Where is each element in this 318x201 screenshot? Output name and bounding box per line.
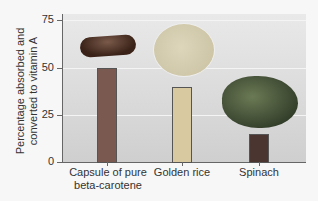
y-axis-title: Percentage absorbed and converted to vit… [14,16,40,166]
bar-capsule [97,68,117,163]
y-tick [57,68,62,69]
x-label-golden-rice: Golden rice [150,166,214,179]
y-tick [57,115,62,116]
y-tick [57,162,62,163]
capsule-image [79,34,136,58]
y-axis [62,14,63,163]
x-label-spinach: Spinach [230,166,288,179]
bar-spinach [249,134,269,163]
x-label-capsule: Capsule of pure beta-carotene [62,166,154,192]
spinach-image [222,76,298,128]
golden-rice-image [153,23,215,77]
y-tick [57,20,62,21]
bar-golden-rice [172,87,192,163]
gridline-75 [62,20,306,21]
